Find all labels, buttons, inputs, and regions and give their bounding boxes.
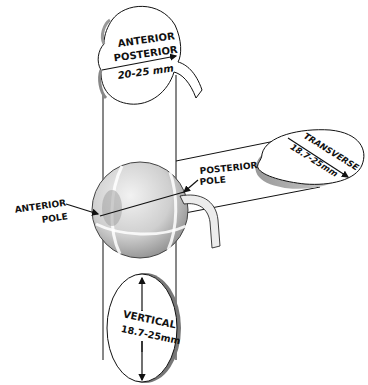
anterior-pole-callout: ANTERIOR POLE <box>14 198 98 225</box>
posterior-pole-callout: POSTERIOR POLE <box>184 160 258 192</box>
vertical-disc: VERTICAL 18.7-25mm <box>107 273 182 383</box>
posterior-pole-line1: POSTERIOR <box>199 160 258 176</box>
transverse-disc: TRANSVERSE 18.7-25mm <box>252 129 368 196</box>
anterior-pole-line2: POLE <box>41 211 68 225</box>
anterior-posterior-disc: ANTERIOR POSTERIOR 20-25 mm <box>98 6 202 104</box>
eyeball-dimensions-diagram: ANTERIOR POSTERIOR 20-25 mm TRANSVERSE 1… <box>0 0 368 385</box>
posterior-pole-line2: POLE <box>199 174 226 187</box>
